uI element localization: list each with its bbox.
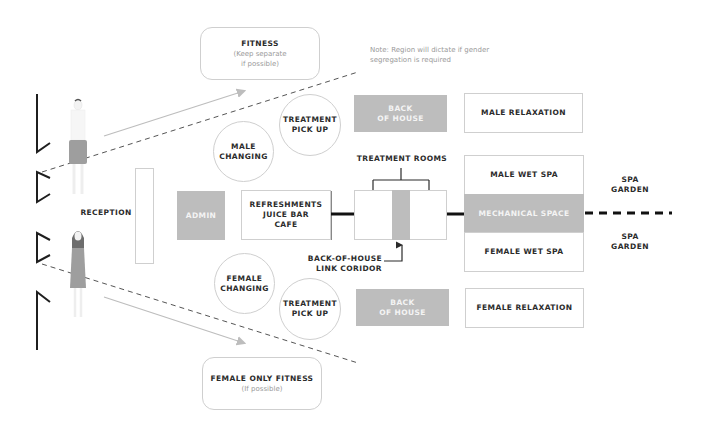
male-changing-line2: CHANGING (219, 152, 267, 162)
female-changing-line1: FEMALE (227, 274, 263, 284)
female-figure-icon (70, 231, 86, 317)
boh-top-line2: OF HOUSE (377, 114, 424, 124)
spa-garden-top-line1: SPA (600, 175, 660, 185)
segregation-note: Note: Region will dictate if gender segr… (370, 45, 489, 65)
female-fitness-area[interactable]: FEMALE ONLY FITNESS (If possible) (202, 357, 322, 410)
fitness-sub2: if possible) (241, 59, 279, 69)
link-corridor-line2: LINK CORIDOR (306, 264, 382, 274)
entry-walls (37, 94, 50, 350)
mechanical-space[interactable]: MECHANICAL SPACE (464, 194, 584, 233)
spa-garden-top: SPA GARDEN (600, 175, 660, 195)
female-wet-spa[interactable]: FEMALE WET SPA (464, 232, 584, 272)
fitness-sub1: (Keep separate (233, 49, 286, 59)
male-changing[interactable]: MALE CHANGING (213, 121, 274, 182)
spa-garden-top-line2: GARDEN (600, 185, 660, 195)
female-relaxation[interactable]: FEMALE RELAXATION (465, 288, 584, 328)
spa-garden-bottom-line2: GARDEN (600, 242, 660, 252)
female-relaxation-label: FEMALE RELAXATION (477, 303, 573, 313)
pickup-bottom-line2: PICK UP (292, 309, 329, 319)
link-corridor-label: BACK-OF-HOUSE LINK CORIDOR (306, 254, 382, 274)
female-fitness-sub: (If possible) (242, 384, 283, 394)
refreshments-line3: CAFE (274, 220, 297, 230)
fitness-title: FITNESS (241, 38, 279, 49)
mechanical-space-label: MECHANICAL SPACE (479, 209, 570, 219)
pickup-top-line2: PICK UP (292, 125, 329, 135)
back-of-house-top[interactable]: BACK OF HOUSE (354, 95, 447, 132)
refreshments-line1: REFRESHMENTS (250, 200, 323, 210)
boh-top-line1: BACK (388, 104, 412, 114)
male-wet-spa[interactable]: MALE WET SPA (464, 155, 584, 195)
reception-label: RECEPTION (76, 208, 136, 218)
admin-label: ADMIN (186, 211, 217, 221)
boh-bottom-line2: OF HOUSE (379, 308, 426, 318)
spa-garden-bottom: SPA GARDEN (600, 232, 660, 252)
note-line-2: segregation is required (370, 55, 489, 65)
link-corridor-line1: BACK-OF-HOUSE (306, 254, 382, 264)
female-fitness-title: FEMALE ONLY FITNESS (211, 373, 314, 384)
admin-room[interactable]: ADMIN (177, 191, 225, 240)
pickup-top-line1: TREATMENT (283, 115, 337, 125)
back-of-house-bottom[interactable]: BACK OF HOUSE (356, 289, 449, 326)
spa-garden-bottom-line1: SPA (600, 232, 660, 242)
reception-desk[interactable] (135, 168, 154, 264)
treatment-rooms-label: TREATMENT ROOMS (350, 154, 454, 164)
pickup-bottom-line1: TREATMENT (283, 299, 337, 309)
male-wet-spa-label: MALE WET SPA (490, 170, 558, 180)
treatment-pickup-top[interactable]: TREATMENT PICK UP (279, 94, 341, 156)
female-changing[interactable]: FEMALE CHANGING (214, 253, 275, 314)
refreshments-line2: JUICE BAR (263, 210, 309, 220)
male-relaxation-label: MALE RELAXATION (481, 108, 566, 118)
female-changing-line2: CHANGING (220, 284, 268, 294)
refreshments-cafe[interactable]: REFRESHMENTS JUICE BAR CAFE (241, 190, 331, 240)
male-changing-line1: MALE (231, 142, 256, 152)
link-corridor-block (392, 190, 410, 240)
male-relaxation[interactable]: MALE RELAXATION (464, 93, 583, 133)
boh-bottom-line1: BACK (390, 298, 414, 308)
fitness-area[interactable]: FITNESS (Keep separate if possible) (200, 27, 320, 80)
male-figure-icon (69, 100, 87, 195)
treatment-pickup-bottom[interactable]: TREATMENT PICK UP (279, 278, 341, 340)
link-corridor-arrow (384, 245, 402, 261)
female-wet-spa-label: FEMALE WET SPA (485, 247, 564, 257)
note-line-1: Note: Region will dictate if gender (370, 45, 489, 55)
